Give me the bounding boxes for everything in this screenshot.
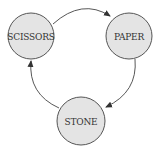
cycle-diagram: SCISSORS PAPER STONE	[0, 0, 165, 154]
node-paper: PAPER	[106, 13, 152, 59]
node-label: STONE	[65, 117, 98, 127]
edge-scissors-to-paper	[53, 9, 110, 24]
node-label: PAPER	[114, 32, 145, 42]
node-stone: STONE	[57, 97, 105, 145]
edge-paper-to-stone	[106, 59, 135, 107]
node-label: SCISSORS	[7, 32, 55, 42]
edge-stone-to-scissors	[31, 61, 59, 108]
node-scissors: SCISSORS	[7, 13, 55, 59]
